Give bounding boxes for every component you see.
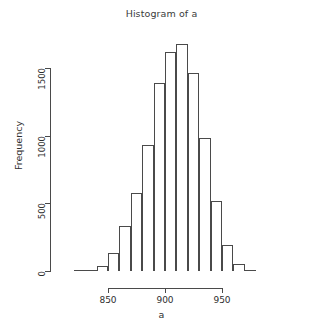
histogram-bar [85, 270, 96, 271]
histogram-bar [97, 266, 108, 271]
plot-area: 050010001500 Frequency 850900950 a [0, 0, 323, 326]
histogram-bar [176, 44, 187, 271]
histogram-bar [233, 264, 244, 271]
y-axis-tick-label: 0 [37, 271, 47, 276]
y-axis-tick-label: 1000 [37, 136, 47, 158]
histogram-bar [131, 193, 142, 271]
histogram-bar [222, 245, 233, 271]
histogram-bar [165, 52, 176, 271]
histogram-bars [0, 0, 323, 326]
histogram-bar [119, 226, 130, 271]
histogram-bar [154, 83, 165, 271]
histogram-bar [211, 201, 222, 271]
x-axis-tick-label: 900 [145, 295, 185, 305]
x-axis-tick [165, 288, 166, 293]
y-axis-tick-label: 500 [37, 203, 47, 219]
histogram-bar [74, 270, 85, 271]
histogram-bar [245, 270, 256, 271]
x-axis-tick-label: 850 [88, 295, 128, 305]
x-axis-tick [222, 288, 223, 293]
histogram-bar [142, 145, 153, 271]
x-axis-tick [108, 288, 109, 293]
histogram-bar [108, 253, 119, 271]
x-axis-title: a [0, 309, 323, 320]
y-axis-line [50, 68, 51, 272]
histogram-bar [188, 73, 199, 271]
histogram-bar [199, 138, 210, 271]
histogram-figure: Histogram of a 050010001500 Frequency 85… [0, 0, 323, 326]
x-axis-tick-label: 950 [202, 295, 242, 305]
y-axis-title: Frequency [13, 106, 24, 186]
y-axis-tick-label: 1500 [37, 68, 47, 90]
